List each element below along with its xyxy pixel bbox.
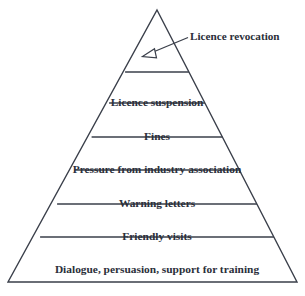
pyramid-level-label-friendly-visits: Friendly visits <box>122 230 192 242</box>
callout-label-licence-revocation: Licence revocation <box>190 30 280 42</box>
pyramid-level-label-fines: Fines <box>144 130 171 142</box>
pyramid-level-label-pressure-from-industry-association: Pressure from industry association <box>73 163 242 175</box>
pyramid-level-label-dialogue-persuasion-support-for-training: Dialogue, persuasion, support for traini… <box>55 263 260 275</box>
pyramid-level-label-licence-suspension: Licence suspension <box>111 96 204 108</box>
pyramid-level-label-warning-letters: Warning letters <box>119 197 196 209</box>
pyramid-graphic: Licence revocation Licence suspension Fi… <box>0 0 305 296</box>
enforcement-pyramid-diagram: Licence revocation Licence suspension Fi… <box>0 0 305 296</box>
